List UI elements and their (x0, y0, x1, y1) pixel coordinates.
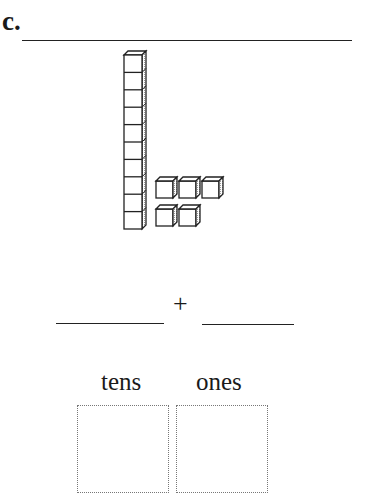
tens-answer-box[interactable] (77, 405, 169, 493)
plus-sign: + (173, 291, 188, 317)
ones-cubes (156, 177, 223, 226)
ones-label: ones (196, 368, 242, 396)
tens-rod (124, 51, 146, 229)
base-ten-blocks (0, 0, 382, 250)
addend-ones-blank[interactable] (202, 324, 294, 325)
addend-tens-blank[interactable] (56, 323, 164, 324)
ones-answer-box[interactable] (176, 405, 268, 493)
tens-label: tens (101, 368, 141, 396)
